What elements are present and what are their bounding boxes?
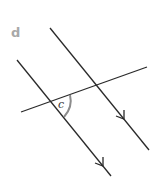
parallel-line-right xyxy=(50,28,149,150)
parallel-line-left xyxy=(17,60,111,176)
angle-label: c xyxy=(58,98,64,111)
transversal-line xyxy=(21,67,147,112)
parallel-lines-diagram: d c xyxy=(0,0,161,178)
part-label: d xyxy=(11,25,20,40)
angle-arc xyxy=(64,95,71,117)
